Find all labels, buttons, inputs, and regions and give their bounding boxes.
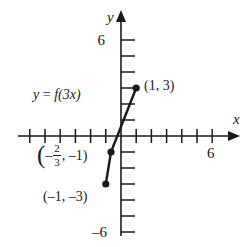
y-axis-arrow	[116, 10, 126, 22]
fraction-denominator: 3	[53, 157, 61, 168]
data-point-minus-two-thirds-minus1	[107, 148, 114, 155]
y-tick-label-6: 6	[98, 33, 106, 48]
data-point-minus1-minus3	[102, 180, 109, 187]
label-minus-sign: –	[45, 149, 52, 163]
function-equation-label: y = f(3x)	[33, 88, 81, 102]
equation-argument: (3x)	[58, 87, 81, 102]
x-tick-label-6: 6	[207, 146, 215, 161]
y-axis	[116, 10, 126, 236]
fraction-two-thirds: 23	[53, 143, 61, 168]
equation-equals: =	[39, 87, 54, 102]
fraction-numerator: 2	[53, 143, 61, 154]
x-axis-label: x	[233, 112, 240, 127]
data-point-1-3	[133, 84, 140, 91]
label-remainder: , –1)	[62, 149, 88, 163]
x-axis-arrow	[228, 131, 240, 141]
point-label-minus-two-thirds-minus-1: (–23, –1)	[37, 143, 88, 168]
point-label-minus-1-minus-3: (–1, –3)	[43, 190, 87, 204]
coordinate-plane-svg	[0, 0, 249, 247]
y-tick-label-minus-6: –6	[92, 225, 107, 240]
y-axis-label: y	[107, 10, 114, 25]
point-label-1-3: (1, 3)	[144, 79, 174, 93]
graph-figure: y x 6 –6 6 y = f(3x) (1, 3) (–23, –1) (–…	[0, 0, 249, 247]
x-axis	[18, 131, 240, 141]
